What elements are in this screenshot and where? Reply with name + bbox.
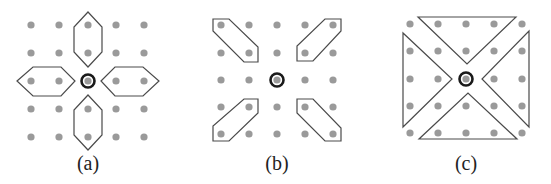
- grid-dot: [406, 47, 413, 54]
- grid-dot: [301, 49, 308, 56]
- hexagon-left: [17, 67, 75, 96]
- grid-dot: [434, 47, 441, 54]
- grid-dot: [245, 76, 252, 83]
- hexagon-bottom: [74, 95, 102, 150]
- grid-dot: [329, 103, 336, 110]
- grid-dot: [84, 49, 91, 56]
- grid-dot: [84, 77, 91, 84]
- grid-dot: [55, 105, 62, 112]
- grid-dot: [518, 102, 525, 109]
- grid-dot: [329, 76, 336, 83]
- grid-dot: [55, 77, 62, 84]
- grid-dot: [329, 130, 336, 137]
- grid-dot: [55, 21, 62, 28]
- grid-dot: [245, 21, 252, 28]
- grid-dot: [84, 21, 91, 28]
- grid-dot: [301, 103, 308, 110]
- panel-c-label: (c): [455, 152, 477, 175]
- grid-dot: [434, 102, 441, 109]
- grid-dot: [490, 20, 497, 27]
- grid-dot: [217, 130, 224, 137]
- grid-dot: [273, 103, 280, 110]
- grid-dot: [27, 105, 34, 112]
- grid-dot: [140, 77, 147, 84]
- panel-b: [213, 19, 341, 141]
- grid-dot: [140, 49, 147, 56]
- grid-dot: [406, 129, 413, 136]
- figure: (a) (b) (c): [0, 0, 551, 184]
- panel-a: [17, 12, 159, 150]
- grid-dot: [434, 129, 441, 136]
- hexagon-top: [74, 12, 102, 67]
- panel-a-label: (a): [77, 152, 99, 175]
- grid-dot: [27, 21, 34, 28]
- grid-dot: [140, 21, 147, 28]
- grid-dot: [490, 47, 497, 54]
- grid-dot: [434, 75, 441, 82]
- grid-dot: [273, 76, 280, 83]
- grid-dot: [217, 76, 224, 83]
- grid-dot: [434, 20, 441, 27]
- grid-dot: [84, 133, 91, 140]
- grid-dot: [406, 102, 413, 109]
- grid-dot: [112, 49, 119, 56]
- grid-dot: [518, 20, 525, 27]
- grid-dot: [140, 133, 147, 140]
- grid-dot: [273, 130, 280, 137]
- grid-dot: [273, 21, 280, 28]
- grid-dot: [301, 21, 308, 28]
- grid-dot: [462, 102, 469, 109]
- grid-dot: [406, 20, 413, 27]
- grid-dot: [55, 49, 62, 56]
- grid-dot: [27, 49, 34, 56]
- grid-dot: [217, 49, 224, 56]
- grid-dot: [518, 75, 525, 82]
- grid-dot: [112, 133, 119, 140]
- grid-dot: [462, 129, 469, 136]
- grid-dot: [518, 47, 525, 54]
- grid-dot: [245, 130, 252, 137]
- grid-dot: [462, 20, 469, 27]
- grid-dot: [462, 47, 469, 54]
- grid-dot: [406, 75, 413, 82]
- grid-dot: [301, 130, 308, 137]
- grid-dot: [112, 105, 119, 112]
- grid-dot: [84, 105, 91, 112]
- grid-dot: [55, 133, 62, 140]
- grid-dot: [329, 21, 336, 28]
- grid-dot: [490, 75, 497, 82]
- grid-dot: [112, 21, 119, 28]
- panel-b-label: (b): [265, 152, 288, 175]
- grid-dot: [273, 49, 280, 56]
- grid-dot: [27, 133, 34, 140]
- grid-dot: [217, 21, 224, 28]
- grid-dot: [245, 49, 252, 56]
- grid-dot: [27, 77, 34, 84]
- panel-c: [403, 17, 529, 139]
- grid-dot: [329, 49, 336, 56]
- grid-dot: [518, 129, 525, 136]
- grid-dot: [462, 75, 469, 82]
- grid-dot: [140, 105, 147, 112]
- grid-dot: [112, 77, 119, 84]
- hexagon-right: [101, 67, 159, 96]
- grid-dot: [245, 103, 252, 110]
- grid-dot: [490, 102, 497, 109]
- grid-dot: [301, 76, 308, 83]
- grid-dot: [490, 129, 497, 136]
- grid-dot: [217, 103, 224, 110]
